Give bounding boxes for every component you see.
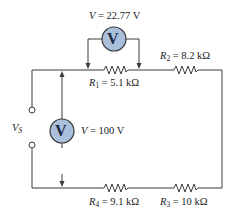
terminal-bottom [29,142,35,148]
resistor-value: = 5.1 kΩ [99,77,139,88]
r1-meter-lead-left [88,39,103,64]
r1-meter-lead-right [124,39,139,64]
r4-label: R4 = 9.1 kΩ [89,196,139,209]
r1-voltmeter-reading: V = 22.77 V [89,10,140,21]
arrow-r1-left [86,63,91,69]
r2-label: R2 = 8.2 kΩ [160,50,210,63]
arrow-r1-right [137,63,142,69]
source-label: VS [12,122,22,135]
r1-label: R1 = 5.1 kΩ [89,77,139,90]
source-subscript: S [18,126,22,135]
circuit-diagram: V V V = 22.77 V V = 100 V VS R1 = 5.1 kΩ… [0,0,238,224]
arrow-source-bottom [60,181,65,187]
source-voltmeter-symbol: V [55,122,67,140]
resistor-r3 [174,184,198,192]
terminal-top [29,107,35,113]
reading-value: = 22.77 V [95,10,140,21]
resistor-r2 [174,66,198,74]
circuit-schematic [0,0,238,224]
resistor-value: = 8.2 kΩ [170,50,210,61]
reading-value: = 100 V [87,125,124,136]
arrow-source-top [60,71,65,77]
resistor-value: = 9.1 kΩ [99,196,139,207]
r3-label: R3 = 10 kΩ [160,196,208,209]
r1-voltmeter-symbol: V [107,30,119,48]
resistor-value: = 10 kΩ [170,196,207,207]
source-voltmeter-reading: V = 100 V [81,125,124,136]
resistor-r1 [104,66,128,74]
resistor-r4 [104,184,128,192]
